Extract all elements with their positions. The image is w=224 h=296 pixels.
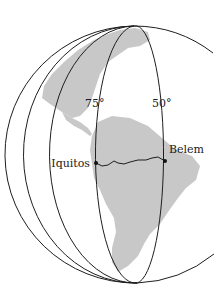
belem-dot xyxy=(163,159,167,163)
south-america-landmass xyxy=(90,116,200,272)
meridian-label-75: 75° xyxy=(85,97,105,110)
city-label-belem: Belem xyxy=(169,143,205,156)
city-label-iquitos: Iquitos xyxy=(51,157,90,170)
iquitos-dot xyxy=(94,161,98,165)
meridian-label-50: 50° xyxy=(152,97,172,110)
globe-diagram: 75° 50° Iquitos Belem xyxy=(0,0,224,296)
